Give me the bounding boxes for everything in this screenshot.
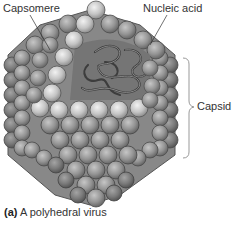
capsid-bracket [183,58,194,158]
figure-caption: (a) A polyhedral virus [4,206,107,218]
capsid-interior [70,39,150,100]
caption-letter: (a) [4,206,17,218]
capsid-label: Capsid [197,100,231,112]
capsomere-label: Capsomere [3,2,60,14]
polyhedral-virus-illustration [0,0,236,225]
caption-text: A polyhedral virus [20,206,107,218]
nucleic-acid-label: Nucleic acid [143,2,202,14]
